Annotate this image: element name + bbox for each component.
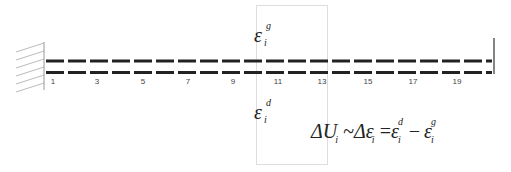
minus: − bbox=[409, 120, 420, 142]
tilde: ~ bbox=[343, 120, 354, 142]
delta-u: ΔU bbox=[311, 120, 337, 142]
superscript-g: g bbox=[431, 116, 436, 127]
energy-strain-equation: ΔUi~Δεi=εdi−εgi bbox=[311, 120, 432, 143]
superscript-g: g bbox=[266, 20, 271, 31]
node-label: 17 bbox=[409, 77, 418, 86]
node-label: 3 bbox=[95, 77, 99, 86]
fixed-wall-support bbox=[16, 42, 44, 92]
subscript-i: i bbox=[264, 114, 267, 125]
superscript-d: d bbox=[266, 97, 271, 108]
node-label: 7 bbox=[186, 77, 190, 86]
node-label: 15 bbox=[364, 77, 373, 86]
node-label: 9 bbox=[231, 77, 235, 86]
node-label: 13 bbox=[318, 77, 327, 86]
node-label: 1 bbox=[51, 77, 55, 86]
subscript-i: i bbox=[372, 134, 375, 145]
subscript-i: i bbox=[335, 134, 338, 145]
subscript-i: i bbox=[431, 134, 434, 145]
upper-strain-label: ε g i bbox=[254, 24, 262, 47]
epsilon-symbol: ε bbox=[254, 24, 262, 46]
equals: = bbox=[380, 120, 391, 142]
subscript-i: i bbox=[398, 134, 401, 145]
subscript-i: i bbox=[264, 37, 267, 48]
node-label: 11 bbox=[274, 77, 282, 86]
epsilon-symbol: ε bbox=[254, 101, 262, 123]
node-label: 5 bbox=[141, 77, 145, 86]
superscript-d: d bbox=[398, 116, 403, 127]
lower-strain-label: ε d i bbox=[254, 101, 262, 124]
node-label: 19 bbox=[453, 77, 462, 86]
